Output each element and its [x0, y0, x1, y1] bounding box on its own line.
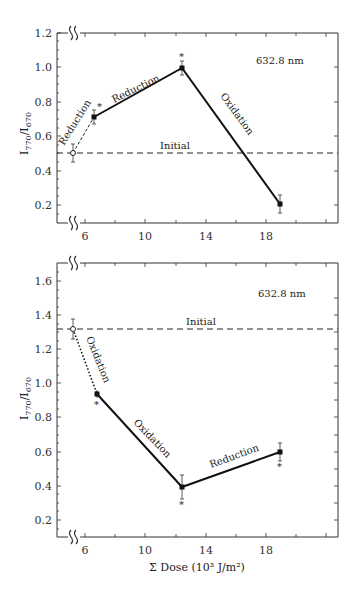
error-bars — [71, 319, 282, 499]
y-tick-label: 0.4 — [35, 480, 53, 493]
y-tick-label: 0.6 — [35, 446, 53, 459]
segment-label-reduction: Reduction — [208, 442, 261, 470]
y-tick-label: 0.8 — [35, 411, 53, 424]
significance-asterisk: * — [179, 51, 184, 62]
x-tick-label: 18 — [259, 544, 273, 557]
x-tick-label: 14 — [199, 544, 213, 557]
square-marker — [95, 392, 100, 397]
square-marker — [92, 115, 97, 120]
significance-asterisk: * — [94, 399, 99, 410]
y-tick-label: 0.6 — [35, 130, 53, 143]
x-tick-label: 10 — [138, 544, 152, 557]
x-tick-label: 18 — [259, 230, 273, 243]
segment-label-reduction: Reduction — [56, 97, 93, 147]
top-y-axis-title: I770/I670 — [18, 112, 33, 155]
error-bars — [71, 61, 282, 213]
segment-label-oxidation: Oxidation — [218, 91, 256, 138]
square-marker — [180, 485, 185, 490]
y-tick-label: 0.2 — [35, 199, 53, 212]
data-line — [97, 394, 280, 487]
significance-asterisk: * — [97, 101, 102, 112]
top-chart: 0.2 0.4 0.6 0.8 1.0 1.2 I770/I670 632.8 … — [18, 26, 338, 243]
initial-label: Initial — [186, 316, 216, 327]
square-marker — [278, 202, 283, 207]
x-tick-label: 6 — [82, 544, 89, 557]
wavelength-annotation: 632.8 nm — [256, 55, 304, 66]
x-axis-title: Σ Dose (10³ J/m²) — [149, 561, 245, 574]
y-tick-label: 0.8 — [35, 96, 53, 109]
y-tick-label: 0.4 — [35, 165, 53, 178]
square-marker — [180, 66, 185, 71]
initial-label: Initial — [160, 140, 190, 151]
x-tick-label: 10 — [138, 230, 152, 243]
bottom-chart: 0.2 0.4 0.6 0.8 1.0 1.2 1.4 1.6 I770/I67… — [18, 256, 338, 574]
bottom-y-axis-title: I770/I670 — [18, 377, 33, 420]
y-tick-label: 1.2 — [35, 27, 53, 40]
open-circle-marker — [71, 327, 76, 332]
y-tick-label: 1.6 — [35, 275, 53, 288]
open-circle-marker — [71, 151, 76, 156]
wavelength-annotation: 632.8 nm — [258, 288, 306, 299]
x-tick-label: 6 — [82, 230, 89, 243]
x-tick-label: 14 — [199, 230, 213, 243]
segment-label-oxidation: Oxidation — [84, 335, 113, 385]
y-tick-label: 1.0 — [35, 61, 53, 74]
square-marker — [278, 450, 283, 455]
y-tick-label: 0.2 — [35, 514, 53, 527]
significance-asterisk: * — [277, 461, 282, 472]
bottom-y-ticks — [57, 263, 338, 537]
segment-label-reduction: Reduction — [110, 72, 162, 105]
y-tick-label: 1.0 — [35, 377, 53, 390]
y-tick-label: 1.2 — [35, 343, 53, 356]
y-tick-label: 1.4 — [35, 309, 53, 322]
significance-asterisk: * — [179, 499, 184, 510]
figure: 0.2 0.4 0.6 0.8 1.0 1.2 I770/I670 632.8 … — [0, 0, 356, 591]
